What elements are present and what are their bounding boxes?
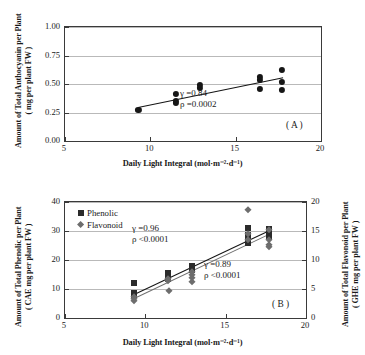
panel-a-label: ( A ) bbox=[286, 120, 303, 130]
data-point bbox=[279, 87, 285, 93]
panel-b-phenolic-correlation-annotation: γ =0.96ρ <0.0001 bbox=[132, 223, 169, 244]
x-axis-tick bbox=[306, 314, 307, 318]
y-axis-right-tick bbox=[302, 318, 306, 319]
data-point bbox=[188, 278, 196, 286]
data-point bbox=[244, 206, 252, 214]
panel-b: Amount of Total Phenolic per Plant ( CAE… bbox=[0, 177, 365, 355]
y-axis-tick bbox=[65, 27, 69, 28]
gridline bbox=[65, 289, 306, 290]
y-axis-tick-label: 0.50 bbox=[22, 78, 60, 88]
x-axis-tick bbox=[65, 314, 66, 318]
gridline bbox=[65, 113, 321, 114]
panel-a-rho-value: ρ =0.0002 bbox=[180, 99, 217, 110]
y-axis-right-tick-label: 20 bbox=[311, 196, 320, 206]
y-axis-tick-label: 20 bbox=[22, 254, 60, 264]
y-axis-right-tick-label: 0 bbox=[311, 312, 315, 322]
y-axis-right-tick-label: 10 bbox=[311, 254, 320, 264]
y-axis-tick bbox=[65, 231, 69, 232]
legend-label-phenolic: Phenolic bbox=[87, 207, 118, 219]
data-point bbox=[256, 86, 262, 92]
x-axis-tick-label: 20 bbox=[301, 320, 310, 330]
y-axis-tick-label: 30 bbox=[22, 225, 60, 235]
panel-a-correlation-annotation: γ =0.84ρ =0.0002 bbox=[180, 88, 217, 109]
legend-label-flavonoid: Flavonoid bbox=[87, 219, 123, 231]
x-axis-tick bbox=[150, 137, 151, 141]
gridline bbox=[65, 56, 321, 57]
y-axis-tick-label: 40 bbox=[22, 196, 60, 206]
x-axis-tick bbox=[65, 137, 66, 141]
panel-a-x-axis-title: Daily Light Integral (mol·m⁻²·d⁻¹) bbox=[0, 158, 365, 168]
panel-b-y-axis-right-title: Amount of Total Flavonoid per Plant ( GH… bbox=[341, 202, 360, 327]
panel-b-y-axis-right-title-line2: ( GHE mg per plant FW ) bbox=[351, 202, 361, 327]
y-axis-tick bbox=[65, 56, 69, 57]
y-axis-right-tick-label: 15 bbox=[311, 225, 320, 235]
gridline bbox=[65, 260, 306, 261]
y-axis-tick bbox=[65, 113, 69, 114]
y-axis-tick bbox=[65, 260, 69, 261]
panel-b-label: ( B ) bbox=[272, 299, 289, 309]
panel-b-y-axis-right-title-line1: Amount of Total Flavonoid per Plant bbox=[341, 202, 351, 327]
panel-a: Amount of Total Anthocyanin per Plant ( … bbox=[0, 0, 365, 178]
panel-b-phenolic-gamma-value: γ =0.96 bbox=[132, 223, 169, 234]
y-axis-right-tick bbox=[302, 231, 306, 232]
diamond-marker-icon bbox=[75, 222, 87, 227]
x-axis-tick bbox=[321, 137, 322, 141]
x-axis-tick-label: 15 bbox=[230, 143, 239, 153]
y-axis-right-tick bbox=[302, 260, 306, 261]
x-axis-tick-label: 10 bbox=[140, 320, 149, 330]
square-marker-icon bbox=[75, 210, 87, 216]
legend-item-phenolic: Phenolic bbox=[75, 207, 123, 219]
y-axis-tick-label: 0.25 bbox=[22, 107, 60, 117]
y-axis-tick bbox=[65, 141, 69, 142]
y-axis-tick bbox=[65, 318, 69, 319]
panel-b-flavonoid-rho-value: ρ <0.0001 bbox=[204, 270, 241, 281]
panel-a-gamma-value: γ =0.84 bbox=[180, 88, 217, 99]
x-axis-tick bbox=[226, 314, 227, 318]
x-axis-tick-label: 10 bbox=[145, 143, 154, 153]
gridline bbox=[65, 202, 306, 203]
data-point bbox=[279, 67, 285, 73]
y-axis-tick-label: 0.75 bbox=[22, 50, 60, 60]
panel-b-phenolic-rho-value: ρ <0.0001 bbox=[132, 234, 169, 245]
y-axis-tick-label: 0 bbox=[22, 312, 60, 322]
data-point bbox=[173, 100, 179, 106]
y-axis-tick bbox=[65, 84, 69, 85]
y-axis-right-tick bbox=[302, 202, 306, 203]
panel-b-x-axis-title: Daily Light Integral (mol·m⁻²·d⁻¹) bbox=[0, 337, 365, 347]
x-axis-tick-label: 5 bbox=[62, 320, 66, 330]
y-axis-tick-label: 0.00 bbox=[22, 135, 60, 145]
panel-a-plot-area bbox=[64, 26, 322, 142]
figure-container: Amount of Total Anthocyanin per Plant ( … bbox=[0, 0, 365, 355]
y-axis-tick-label: 10 bbox=[22, 283, 60, 293]
x-axis-tick-label: 15 bbox=[220, 320, 229, 330]
y-axis-right-tick bbox=[302, 289, 306, 290]
x-axis-tick-label: 5 bbox=[62, 143, 66, 153]
x-axis-tick-label: 20 bbox=[316, 143, 325, 153]
panel-b-legend: Phenolic Flavonoid bbox=[75, 207, 123, 231]
data-point bbox=[173, 91, 179, 97]
data-point bbox=[131, 280, 137, 286]
legend-item-flavonoid: Flavonoid bbox=[75, 219, 123, 231]
y-axis-tick-label: 1.00 bbox=[22, 21, 60, 31]
y-axis-right-tick-label: 5 bbox=[311, 283, 315, 293]
gridline bbox=[65, 27, 321, 28]
y-axis-tick bbox=[65, 289, 69, 290]
panel-b-flavonoid-correlation-annotation: γ =0.89ρ <0.0001 bbox=[204, 259, 241, 280]
panel-b-flavonoid-gamma-value: γ =0.89 bbox=[204, 259, 241, 270]
x-axis-tick bbox=[145, 314, 146, 318]
y-axis-tick bbox=[65, 202, 69, 203]
x-axis-tick bbox=[236, 137, 237, 141]
